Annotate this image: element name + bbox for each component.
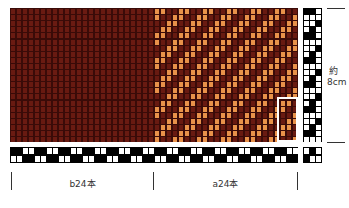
tieup-grid bbox=[303, 147, 322, 163]
treadling-grid bbox=[10, 147, 298, 163]
size-top-line bbox=[327, 8, 345, 9]
threading-grid bbox=[303, 8, 322, 142]
size-label-top: 約 bbox=[327, 66, 346, 77]
weave-drawdown bbox=[10, 8, 298, 142]
size-bottom-line bbox=[327, 142, 345, 143]
section-label-b: b24本 bbox=[12, 177, 153, 190]
repeat-highlight-box bbox=[277, 97, 298, 142]
size-label: 約 8cm bbox=[327, 66, 346, 88]
size-label-bottom: 8cm bbox=[327, 77, 346, 88]
section-label-a: a24本 bbox=[154, 177, 297, 190]
divider-right bbox=[297, 172, 298, 190]
